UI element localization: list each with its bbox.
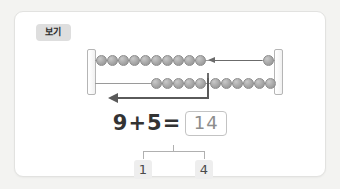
bead: [184, 55, 195, 66]
bracket-bar: [143, 151, 205, 152]
equation: 9+5=14: [15, 111, 325, 136]
move-arrow-bottom-riser: [207, 78, 209, 98]
frame-post-right: [274, 49, 283, 95]
bead: [195, 78, 206, 89]
move-arrow-bottom-head: [108, 93, 118, 103]
move-arrow-bottom-line: [117, 97, 209, 99]
equation-answer-box[interactable]: 14: [185, 111, 227, 136]
equation-equals-operator: =: [163, 111, 182, 135]
bead: [221, 78, 232, 89]
move-arrow-top-line: [214, 60, 262, 61]
bead-frame: [87, 45, 283, 103]
equation-addend1: 9: [113, 111, 129, 135]
bead: [96, 55, 107, 66]
decomposition-right-value[interactable]: 4: [195, 160, 213, 179]
bead: [151, 78, 162, 89]
example-badge: 보기: [36, 24, 71, 41]
bead: [162, 78, 173, 89]
equation-plus-operator: +: [128, 111, 147, 135]
decomposition-left-value[interactable]: 1: [134, 160, 152, 179]
bead: [254, 78, 265, 89]
equation-addend2: 5: [147, 111, 163, 135]
bead: [210, 78, 221, 89]
bead: [265, 78, 276, 89]
bead: [118, 55, 129, 66]
bead: [173, 78, 184, 89]
bead: [243, 78, 254, 89]
bead: [195, 55, 206, 66]
bead: [129, 55, 140, 66]
bracket-leg-left: [143, 151, 144, 159]
frame-post-left: [87, 49, 96, 95]
bead: [184, 78, 195, 89]
worksheet-root: 보기: [0, 0, 340, 189]
bead: [151, 55, 162, 66]
decomposition-bracket: 1 4: [139, 145, 209, 183]
bead: [107, 55, 118, 66]
bracket-leg-right: [204, 151, 205, 159]
bead: [162, 55, 173, 66]
example-card: 보기: [14, 11, 326, 177]
bead: [232, 78, 243, 89]
bead: [173, 55, 184, 66]
bead: [140, 55, 151, 66]
move-arrow-top-head: [208, 57, 215, 63]
bead-moved-top: [263, 55, 274, 66]
